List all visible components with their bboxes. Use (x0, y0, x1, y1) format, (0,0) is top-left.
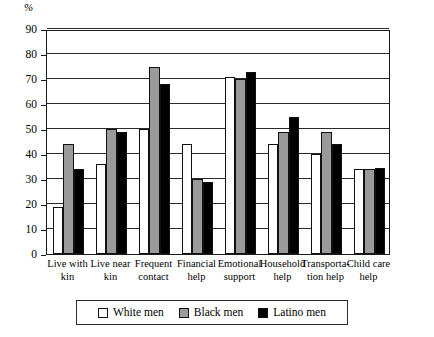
bar (160, 84, 171, 254)
y-axis-tick-label: 0 (31, 249, 37, 261)
bar (246, 72, 257, 255)
bar (139, 129, 150, 254)
bar (354, 169, 365, 254)
gridline (47, 28, 389, 29)
bar (182, 144, 193, 254)
bar (235, 79, 246, 254)
x-axis-category-labels: Live withkinLive nearkinFrequentcontactF… (46, 258, 390, 292)
bar (106, 129, 117, 254)
legend: White menBlack menLatino men (76, 300, 348, 325)
plot-area (46, 30, 390, 255)
x-axis-category-label-line: help (341, 271, 396, 284)
bar (225, 77, 236, 255)
bar (311, 154, 322, 254)
y-axis: 0102030405060708090 (0, 30, 46, 255)
bar (53, 207, 64, 255)
bar (289, 117, 300, 255)
legend-swatch-white (98, 308, 108, 318)
legend-label: Latino men (273, 307, 326, 319)
y-axis-tick-label: 80 (26, 49, 38, 61)
y-axis-tick-label: 90 (26, 24, 38, 36)
y-axis-tick-label: 60 (26, 99, 38, 111)
bar (321, 132, 332, 255)
bar (96, 164, 107, 254)
x-axis-category-label: Child carehelp (341, 258, 396, 283)
bar (332, 144, 343, 254)
bar (117, 132, 128, 255)
legend-item: Latino men (258, 307, 326, 319)
bar-group (305, 31, 348, 254)
bar (63, 144, 74, 254)
bar (278, 132, 289, 255)
bar (268, 144, 279, 254)
bar (203, 182, 214, 255)
legend-swatch-gray (179, 308, 189, 318)
bar-chart: % 0102030405060708090 Live withkinLive n… (0, 0, 434, 337)
bar-group (348, 31, 391, 254)
y-axis-tick-label: 20 (26, 199, 38, 211)
y-axis-tick-label: 50 (26, 124, 38, 136)
legend-label: Black men (194, 307, 244, 319)
y-axis-unit-label: % (24, 2, 33, 13)
y-axis-tick-label: 10 (26, 224, 38, 236)
bar-group (133, 31, 176, 254)
bar (375, 168, 386, 254)
legend-swatch-black (258, 308, 268, 318)
bar (192, 179, 203, 254)
bar (364, 169, 375, 254)
bar-group (47, 31, 90, 254)
bar-group (262, 31, 305, 254)
bar-group (176, 31, 219, 254)
bar (149, 67, 160, 255)
legend-label: White men (113, 307, 164, 319)
legend-item: White men (98, 307, 164, 319)
bars-layer (47, 31, 389, 254)
bar-group (90, 31, 133, 254)
y-axis-tick-label: 30 (26, 174, 38, 186)
y-axis-tick-label: 70 (26, 74, 38, 86)
bar-group (219, 31, 262, 254)
y-axis-tick-mark (41, 255, 46, 256)
x-axis-category-label-line: Child care (341, 258, 396, 271)
bar (74, 169, 85, 254)
y-axis-tick-label: 40 (26, 149, 38, 161)
legend-item: Black men (179, 307, 244, 319)
